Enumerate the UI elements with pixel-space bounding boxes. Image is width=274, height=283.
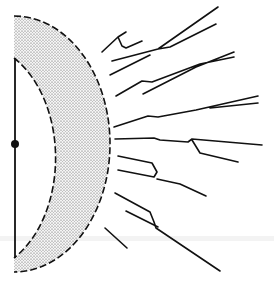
- crack-rays: [102, 7, 262, 271]
- diagram-svg: [0, 0, 274, 283]
- crack-ray-6: [115, 138, 262, 162]
- crack-ray-9: [115, 193, 220, 271]
- stippled-annulus: [14, 16, 110, 272]
- crack-ray-2: [112, 7, 218, 61]
- crack-ray-4: [116, 52, 234, 96]
- center-point: [11, 140, 19, 148]
- crack-diagram: [0, 0, 274, 283]
- crack-ray-5: [114, 96, 258, 127]
- crack-ray-3: [110, 55, 150, 75]
- crack-ray-8: [157, 179, 206, 196]
- crack-ray-1: [102, 32, 142, 52]
- crack-ray-7: [118, 156, 157, 177]
- crack-ray-11: [105, 228, 127, 248]
